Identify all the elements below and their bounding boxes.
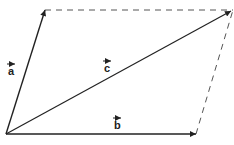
dashed-edge-right — [196, 10, 233, 134]
label-c: c — [103, 61, 111, 74]
vector-c — [6, 11, 231, 134]
svg-text:a: a — [8, 65, 15, 77]
label-b: b — [113, 118, 121, 131]
svg-text:c: c — [104, 62, 110, 74]
label-a: a — [7, 64, 15, 77]
svg-text:b: b — [114, 119, 121, 131]
vector-diagram: a c b — [0, 0, 234, 145]
